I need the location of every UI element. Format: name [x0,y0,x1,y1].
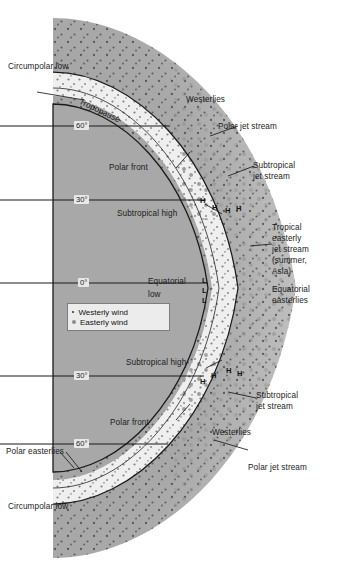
label-polar-easterlies: Polar easterlies [6,447,64,458]
legend-label-easterly: Easterly wind [80,318,128,327]
label-polar-front-bottom: Polar front [110,418,149,429]
svg-text:H: H [236,204,241,213]
label-polar-jet-stream-top: Polar jet stream [218,122,277,133]
svg-text:L: L [202,286,207,295]
lat-0-equator: 0° [78,278,89,287]
label-equatorial-low-2: low [148,290,161,301]
lat-30-north: 30° [74,195,89,204]
svg-text:H: H [225,206,230,215]
label-subtropical-jet-top-1: Subtropical [253,161,295,172]
label-polar-jet-stream-bottom: Polar jet stream [248,463,307,474]
label-polar-front-top: Polar front [109,163,148,174]
label-tropical-easterly-1: Tropical [272,223,302,234]
label-subtropical-high-bottom: Subtropical high [126,358,186,369]
svg-text:H: H [237,369,242,378]
wind-legend: Westerly wind Easterly wind [67,303,170,331]
svg-text:H: H [212,203,217,212]
label-circumpolar-low-top: Circumpolar low [8,62,68,73]
svg-text:L: L [202,296,207,305]
label-westerlies-top: Westerlies [186,95,225,106]
legend-item-westerly: Westerly wind [72,307,165,317]
svg-text:H: H [226,366,231,375]
label-tropical-easterly-2: easterly [272,234,301,245]
easterly-wind-dot-icon [72,320,76,324]
legend-item-easterly: Easterly wind [72,317,165,327]
label-tropical-easterly-4: (summer, [272,256,307,267]
label-subtropical-high-top: Subtropical high [117,209,177,220]
svg-text:L: L [202,276,207,285]
label-tropical-easterly-5: Asia) [272,267,291,278]
label-subtropical-jet-bottom-2: jet stream [256,402,293,413]
diagram-canvas: HH HH HH HH LL L Circumpolar low Tropopa… [0,0,351,576]
label-westerlies-bottom: Westerlies [212,428,251,439]
svg-text:H: H [200,377,205,386]
lat-60-north: 60° [74,121,89,130]
label-equatorial-easterlies-2: easterlies [272,296,308,307]
label-subtropical-jet-top-2: jet stream [253,172,290,183]
svg-text:H: H [200,196,205,205]
label-circumpolar-low-bottom: Circumpolar low [8,502,68,513]
westerly-wind-dot-icon [72,311,74,313]
lat-60-south: 60° [74,439,89,448]
lat-30-south: 30° [74,371,89,380]
label-subtropical-jet-bottom-1: Subtropical [256,391,298,402]
label-tropical-easterly-3: jet stream [272,245,309,256]
legend-label-westerly: Westerly wind [78,308,128,317]
svg-text:H: H [211,371,216,380]
label-equatorial-easterlies-1: Equatorial [272,285,310,296]
label-equatorial-low-1: Equatorial [148,277,186,288]
